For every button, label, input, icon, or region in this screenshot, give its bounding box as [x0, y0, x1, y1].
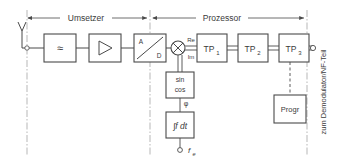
bandpass-symbol: ≈ — [57, 42, 63, 54]
diagram-canvas: Umsetzer Prozessor ≈ A D — [0, 0, 344, 163]
block-tp2[interactable]: TP 2 — [238, 34, 268, 62]
section-label-prozessor: Prozessor — [203, 13, 241, 23]
output-label: zum Demodulator/NF-Teil — [319, 49, 328, 134]
label-frequency: f — [188, 146, 191, 155]
block-tp1[interactable]: TP 1 — [197, 34, 227, 62]
block-bandpass-filter[interactable]: ≈ — [44, 34, 76, 62]
tp1-label: TP — [204, 44, 215, 54]
tp3-label: TP — [286, 44, 297, 54]
tp2-label: TP — [245, 44, 256, 54]
block-sin-cos[interactable]: sin cos — [166, 72, 194, 98]
label-frequency-sub: e — [192, 151, 195, 157]
integrator-label: ∫f dt — [172, 121, 188, 131]
adc-label-d: D — [157, 52, 162, 59]
adc-label-a: A — [139, 38, 144, 45]
label-real: Re — [187, 37, 195, 43]
sincos-label-sin: sin — [176, 76, 185, 83]
antenna-icon — [18, 22, 44, 48]
progr-label: Progr — [281, 105, 300, 114]
block-progr[interactable]: Progr — [274, 95, 306, 123]
antenna-junction — [25, 46, 29, 50]
block-diagram-svg: Umsetzer Prozessor ≈ A D — [0, 0, 344, 163]
label-phase: φ — [184, 100, 189, 108]
fe-terminal[interactable] — [178, 148, 183, 153]
oscillator-path — [178, 55, 182, 72]
section-label-umsetzer: Umsetzer — [68, 13, 105, 23]
block-integrator[interactable]: ∫f dt — [166, 112, 194, 138]
mixer-node[interactable] — [171, 41, 185, 55]
sincos-label-cos: cos — [175, 86, 186, 93]
block-amplifier[interactable] — [89, 34, 121, 62]
output-terminal[interactable] — [310, 45, 315, 50]
label-imag: Im — [188, 54, 195, 60]
block-adc[interactable]: A D — [134, 34, 166, 62]
block-tp3[interactable]: TP 3 — [279, 34, 309, 62]
complex-signal-path — [185, 46, 197, 50]
